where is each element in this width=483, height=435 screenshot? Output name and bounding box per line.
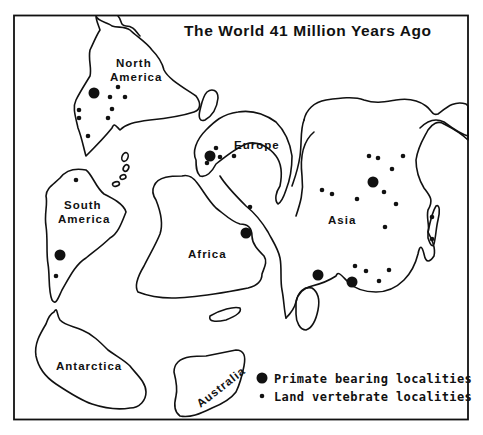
primate-locality-dot (368, 177, 379, 188)
label-north-america-line1: North (116, 57, 152, 69)
label-africa: Africa (188, 248, 227, 260)
southeast-asia-peninsula (296, 288, 319, 330)
greenland-island (199, 90, 218, 121)
south-america-landmass (45, 169, 126, 302)
label-south-america-line1: South (64, 199, 102, 211)
land-vertebrate-locality-dot (394, 202, 399, 207)
land-vertebrate-locality-dot (330, 192, 335, 197)
primate-locality-dot (55, 250, 66, 261)
label-asia: Asia (328, 214, 356, 226)
primate-locality-dot (241, 228, 252, 239)
land-vertebrate-locality-dot (401, 154, 406, 159)
land-vertebrate-locality-dot (218, 155, 223, 160)
primate-locality-dot (205, 151, 216, 162)
land-vertebrate-locality-dot (364, 269, 369, 274)
caribbean-island-1 (121, 152, 130, 163)
legend: Primate bearing localities Land vertebra… (257, 372, 473, 404)
land-vertebrate-locality-dot (86, 134, 91, 139)
europe-east-coast (296, 132, 314, 216)
land-vertebrate-locality-dot (390, 167, 395, 172)
legend-primate-label: Primate bearing localities (274, 372, 472, 386)
land-vertebrate-locality-dot (74, 178, 79, 183)
caribbean-island-3 (119, 174, 126, 180)
primate-locality-dot (347, 277, 358, 288)
land-vertebrate-locality-dot (205, 161, 210, 166)
madagascar-island (210, 307, 241, 321)
land-vertebrate-locality-dot (376, 156, 381, 161)
north-america-landmass (74, 16, 199, 156)
land-vertebrate-locality-dot (430, 237, 435, 242)
legend-primate-dot-icon (257, 373, 268, 384)
map-title: The World 41 Million Years Ago (184, 22, 432, 39)
land-vertebrate-locality-dot (77, 108, 82, 113)
land-vertebrate-locality-dot (214, 146, 219, 151)
land-vertebrate-locality-dot (248, 205, 253, 210)
land-vertebrate-locality-dot (106, 116, 111, 121)
label-europe: Europe (234, 139, 280, 151)
land-vertebrate-locality-dot (353, 264, 358, 269)
land-vertebrate-locality-dot (110, 107, 115, 112)
land-vertebrate-locality-dot (430, 215, 435, 220)
land-vertebrate-locality-dot (320, 188, 325, 193)
asia-northeast-coast (420, 120, 468, 136)
north-america-upper-coast (118, 16, 140, 36)
label-antarctica: Antarctica (56, 360, 122, 372)
primate-locality-dot (313, 270, 324, 281)
land-vertebrate-locality-dot (232, 154, 237, 159)
land-vertebrate-locality-dot (123, 95, 128, 100)
land-vertebrate-locality-dot (54, 274, 59, 279)
label-australia: Australia (194, 364, 247, 409)
land-vertebrate-locality-dot (116, 85, 121, 90)
land-vertebrate-locality-dot (367, 154, 372, 159)
land-vertebrate-locality-dot (108, 95, 113, 100)
land-vertebrate-locality-dot (77, 116, 82, 121)
primate-locality-dot (89, 88, 100, 99)
world-map: The World 41 Million Years Ago North Ame… (0, 0, 483, 435)
land-vertebrate-locality-dot (383, 225, 388, 230)
land-vertebrate-locality-dot (355, 197, 360, 202)
caribbean-island-2 (122, 164, 130, 173)
land-vertebrate-locality-dot (382, 190, 387, 195)
label-north-america-line2: America (110, 71, 162, 83)
asia-landmass (286, 98, 468, 318)
caribbean-island-4 (112, 181, 120, 187)
legend-vertebrate-label: Land vertebrate localities (274, 390, 472, 404)
label-south-america-line2: America (58, 213, 110, 225)
legend-vertebrate-dot-icon (260, 394, 265, 399)
land-vertebrate-locality-dot (387, 268, 392, 273)
land-vertebrate-locality-dot (377, 279, 382, 284)
